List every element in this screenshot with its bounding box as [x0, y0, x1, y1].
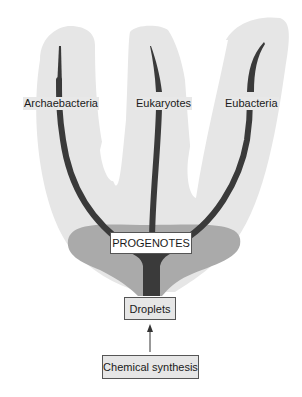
arrow-head-icon — [147, 324, 153, 332]
label-eukaryotes: Eukaryotes — [135, 97, 192, 110]
node-progenotes: PROGENOTES — [110, 232, 192, 254]
node-droplets-label: Droplets — [130, 303, 171, 315]
lobe-gap-left — [100, 40, 122, 181]
tree-of-life-diagram — [0, 0, 302, 397]
node-chemical-synthesis-label: Chemical synthesis — [103, 361, 198, 373]
label-archaebacteria: Archaebacteria — [23, 97, 99, 110]
node-progenotes-label: PROGENOTES — [112, 237, 190, 249]
label-eubacteria: Eubacteria — [224, 97, 279, 110]
node-droplets: Droplets — [124, 297, 176, 320]
node-chemical-synthesis: Chemical synthesis — [102, 355, 199, 379]
